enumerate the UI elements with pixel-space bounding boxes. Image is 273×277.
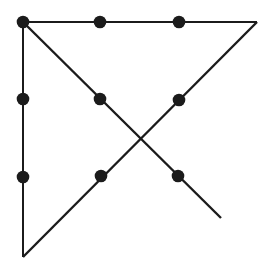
puzzle-dot-r2c2 bbox=[172, 170, 185, 183]
puzzle-dot-r1c0 bbox=[17, 93, 30, 106]
puzzle-dot-r1c1 bbox=[94, 93, 107, 106]
puzzle-dot-r1c2 bbox=[173, 94, 186, 107]
puzzle-dot-r0c0 bbox=[17, 16, 30, 29]
puzzle-dot-r0c1 bbox=[94, 16, 107, 29]
nine-dot-puzzle-canvas bbox=[0, 0, 273, 277]
puzzle-dot-r2c0 bbox=[17, 171, 30, 184]
puzzle-dot-r0c2 bbox=[173, 16, 186, 29]
diagonal-down-right-line bbox=[23, 22, 221, 218]
nine-dot-puzzle-figure bbox=[0, 0, 273, 277]
puzzle-dot-r2c1 bbox=[95, 170, 108, 183]
